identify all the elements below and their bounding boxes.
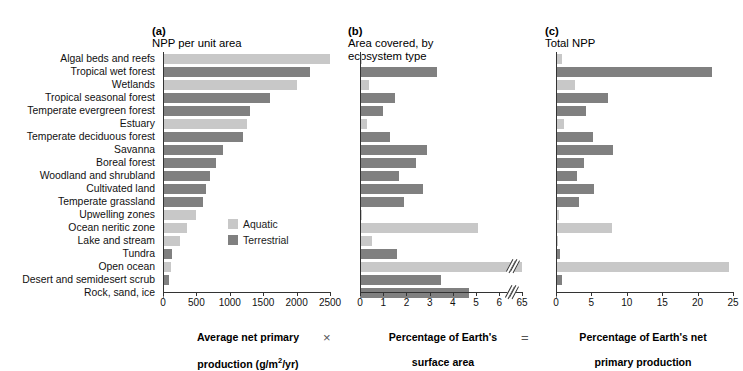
- bar-row: [556, 130, 733, 143]
- panel-c-axis-title: Percentage of Earth's net primary produc…: [545, 318, 741, 368]
- category-label: Ocean neritic zone: [0, 221, 160, 234]
- x-axis-break-label: 65: [516, 297, 527, 308]
- bar-row: [360, 156, 522, 169]
- bar: [360, 67, 437, 77]
- category-label: Estuary: [0, 117, 160, 130]
- bar: [556, 197, 579, 207]
- bar-row: [556, 260, 733, 273]
- panel-a-x-axis: [163, 292, 330, 293]
- x-axis-tick: [163, 292, 164, 296]
- panel-a-axis-title-line1: Average net primary: [197, 331, 299, 343]
- bar: [360, 132, 390, 142]
- bar: [163, 132, 243, 142]
- x-axis-tick-label: 1000: [219, 297, 241, 308]
- x-axis-tick-break: [522, 292, 523, 296]
- panel-b-area-covered: 012345665: [360, 52, 525, 294]
- x-axis-tick-label: 10: [621, 297, 632, 308]
- x-axis-tick-label: 6: [497, 297, 503, 308]
- panel-a-y-axis: [163, 52, 164, 292]
- bar-row: [163, 169, 330, 182]
- x-axis-tick-label: 1: [380, 297, 386, 308]
- bar: [360, 119, 367, 129]
- panel-a-axis-title: Average net primary production (g/m2/yr): [150, 318, 346, 371]
- bar-row: [360, 260, 522, 273]
- bar-row: [163, 117, 330, 130]
- bar: [556, 67, 712, 77]
- bar: [556, 171, 577, 181]
- bar-row: [163, 143, 330, 156]
- x-axis-tick: [733, 292, 734, 296]
- panel-a-plot-area: [163, 52, 333, 286]
- bar: [163, 67, 310, 77]
- bar-row: [556, 156, 733, 169]
- category-label: Wetlands: [0, 78, 160, 91]
- x-axis-tick-label: 2000: [285, 297, 307, 308]
- category-label: Algal beds and reefs: [0, 52, 160, 65]
- bar-row: [556, 143, 733, 156]
- bar: [163, 223, 187, 233]
- bar: [360, 223, 478, 233]
- category-label: Upwelling zones: [0, 208, 160, 221]
- bar-row: [360, 65, 522, 78]
- bar: [360, 262, 522, 272]
- bar-row: [556, 208, 733, 221]
- x-axis-tick: [662, 292, 663, 296]
- panel-b-y-axis: [360, 52, 361, 292]
- bar-row: [556, 273, 733, 286]
- panel-c-axis-title-line2: primary production: [594, 356, 691, 368]
- bar-row: [360, 234, 522, 247]
- bar-row: [360, 117, 522, 130]
- legend: AquaticTerrestrial: [228, 217, 289, 249]
- panel-c-x-axis: [556, 292, 733, 293]
- x-axis-tick: [476, 292, 477, 296]
- panel-b-x-axis: [360, 292, 522, 293]
- bar-row: [163, 260, 330, 273]
- x-axis-tick: [430, 292, 431, 296]
- bar-row: [163, 52, 330, 65]
- panel-b-title-prefix: (b): [348, 25, 362, 37]
- x-axis-tick: [698, 292, 699, 296]
- category-label: Temperate deciduous forest: [0, 130, 160, 143]
- panel-a-axis-title-line2-end: /yr): [282, 358, 299, 370]
- bar: [360, 158, 416, 168]
- bar-row: [360, 52, 522, 65]
- x-axis-tick-label: 1500: [252, 297, 274, 308]
- legend-item: Terrestrial: [228, 233, 289, 247]
- panel-a-title-prefix: (a): [152, 25, 166, 37]
- x-axis-tick-label: 0: [160, 297, 166, 308]
- legend-label: Terrestrial: [243, 235, 289, 246]
- bar: [163, 106, 250, 116]
- panel-b-axis-title-line2: surface area: [412, 356, 474, 368]
- panel-c-title: (c) Total NPP: [545, 12, 595, 50]
- bar-row: [556, 78, 733, 91]
- x-axis-tick-label: 2: [404, 297, 410, 308]
- bar-row: [556, 104, 733, 117]
- bar-row: [360, 130, 522, 143]
- bar: [360, 171, 399, 181]
- x-axis-tick-label: 20: [692, 297, 703, 308]
- bar-row: [163, 273, 330, 286]
- bar: [556, 93, 608, 103]
- bar: [360, 93, 395, 103]
- x-axis-tick-label: 5: [473, 297, 479, 308]
- bar: [163, 158, 216, 168]
- legend-item: Aquatic: [228, 217, 289, 231]
- x-axis-tick: [556, 292, 557, 296]
- panel-c-total-npp: 0510152025: [556, 52, 736, 294]
- bar-row: [556, 169, 733, 182]
- legend-swatch-icon: [228, 219, 238, 229]
- bar-row: [163, 156, 330, 169]
- bar-row: [360, 221, 522, 234]
- legend-label: Aquatic: [243, 219, 278, 230]
- category-label: Cultivated land: [0, 182, 160, 195]
- bar: [163, 262, 171, 272]
- panel-a-axis-title-line2: production (g/m2/yr): [197, 358, 298, 370]
- bar-row: [360, 143, 522, 156]
- panel-a-axis-title-line2-text: production (g/m: [197, 358, 278, 370]
- bar-row: [556, 65, 733, 78]
- bar: [360, 275, 441, 285]
- bar-row: [360, 78, 522, 91]
- category-label: Lake and stream: [0, 234, 160, 247]
- category-axis-labels: Algal beds and reefsTropical wet forestW…: [0, 52, 160, 299]
- bar: [360, 236, 372, 246]
